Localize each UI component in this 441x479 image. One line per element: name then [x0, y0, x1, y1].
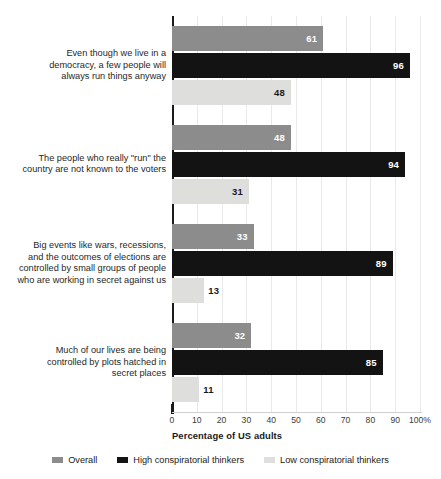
legend-item[interactable]: Low conspiratorial thinkers	[264, 455, 389, 465]
category-label-line: controlled by plots hatched in	[4, 357, 166, 369]
legend-swatch-icon	[52, 457, 63, 463]
legend-swatch-icon	[117, 457, 128, 463]
bar-value-label: 48	[274, 132, 291, 143]
category-label: The people who really "run" thecountry a…	[4, 153, 166, 177]
bar-high[interactable]: 85	[172, 350, 383, 375]
bar-row: 85	[172, 350, 420, 375]
legend-swatch-icon	[264, 457, 275, 463]
category-label: Even though we live in ademocracy, a few…	[4, 48, 166, 83]
bar-low[interactable]: 31	[172, 179, 249, 204]
category-label-line: secret places	[4, 368, 166, 380]
x-tick-label: 50	[291, 415, 301, 425]
plot-area: 619648489431338913328511	[172, 16, 420, 412]
bar-value-label: 94	[388, 159, 405, 170]
x-axis-line	[172, 412, 422, 413]
bar-row: 48	[172, 125, 420, 150]
gridline-100	[420, 16, 421, 412]
bar-low[interactable]: 11	[172, 377, 199, 402]
bar-group: 328511	[172, 313, 420, 412]
legend-item[interactable]: High conspiratorial thinkers	[117, 455, 244, 465]
x-tick-label: 0	[170, 415, 175, 425]
bar-row: 32	[172, 323, 420, 348]
category-label-line: always run things anyway	[4, 71, 166, 83]
x-tick-label: 40	[266, 415, 276, 425]
bar-value-label: 85	[366, 357, 383, 368]
bar-row: 61	[172, 26, 420, 51]
chart-figure: 619648489431338913328511 Even though we …	[0, 0, 441, 479]
bar-value-label: 33	[237, 231, 254, 242]
bar-value-label: 89	[376, 258, 393, 269]
category-label: Big events like wars, recessions,and the…	[4, 240, 166, 287]
bar-row: 96	[172, 53, 420, 78]
x-tick-label: 10	[192, 415, 202, 425]
bar-low[interactable]: 13	[172, 278, 204, 303]
bar-overall[interactable]: 32	[172, 323, 251, 348]
bar-high[interactable]: 96	[172, 53, 410, 78]
x-tick-label: 30	[242, 415, 252, 425]
x-axis-title: Percentage of US adults	[172, 430, 282, 441]
category-label: Much of our lives are beingcontrolled by…	[4, 345, 166, 380]
bar-value-label: 96	[393, 60, 410, 71]
bar-low[interactable]: 48	[172, 80, 291, 105]
legend-label: Low conspiratorial thinkers	[280, 455, 389, 465]
bar-high[interactable]: 94	[172, 152, 405, 177]
category-label-line: democracy, a few people will	[4, 60, 166, 72]
x-tick-label: 90	[390, 415, 400, 425]
legend-label: High conspiratorial thinkers	[133, 455, 244, 465]
bar-high[interactable]: 89	[172, 251, 393, 276]
legend-label: Overall	[68, 455, 97, 465]
category-label-line: country are not known to the voters	[4, 164, 166, 176]
x-tick-label: 20	[217, 415, 227, 425]
bar-value-label: 61	[306, 33, 323, 44]
bar-row: 31	[172, 179, 420, 204]
bar-value-label: 13	[204, 285, 219, 296]
bar-value-label: 31	[232, 186, 249, 197]
bar-row: 89	[172, 251, 420, 276]
x-tick-label: 60	[316, 415, 326, 425]
legend-item[interactable]: Overall	[52, 455, 97, 465]
bar-value-label: 11	[199, 384, 213, 395]
x-tick-label: 100%	[409, 415, 431, 425]
chart-legend: OverallHigh conspiratorial thinkersLow c…	[0, 455, 441, 465]
bar-row: 13	[172, 278, 420, 303]
x-tick-label: 80	[366, 415, 376, 425]
bar-row: 11	[172, 377, 420, 402]
bar-value-label: 32	[234, 330, 251, 341]
bar-group: 489431	[172, 115, 420, 214]
bar-overall[interactable]: 48	[172, 125, 291, 150]
category-label-line: The people who really "run" the	[4, 153, 166, 165]
category-label-line: Big events like wars, recessions,	[4, 240, 166, 252]
bar-row: 94	[172, 152, 420, 177]
category-label-line: controlled by small groups of people	[4, 263, 166, 275]
bar-overall[interactable]: 61	[172, 26, 323, 51]
category-label-line: who are working in secret against us	[4, 275, 166, 287]
x-tick-labels: 0102030405060708090100%	[172, 415, 420, 429]
bar-row: 48	[172, 80, 420, 105]
bar-overall[interactable]: 33	[172, 224, 254, 249]
bar-group: 619648	[172, 16, 420, 115]
bar-group: 338913	[172, 214, 420, 313]
category-label-line: Even though we live in a	[4, 48, 166, 60]
x-tick-label: 70	[341, 415, 351, 425]
bar-value-label: 48	[274, 87, 291, 98]
bar-row: 33	[172, 224, 420, 249]
category-label-line: Much of our lives are being	[4, 345, 166, 357]
category-label-line: and the outcomes of elections are	[4, 252, 166, 264]
